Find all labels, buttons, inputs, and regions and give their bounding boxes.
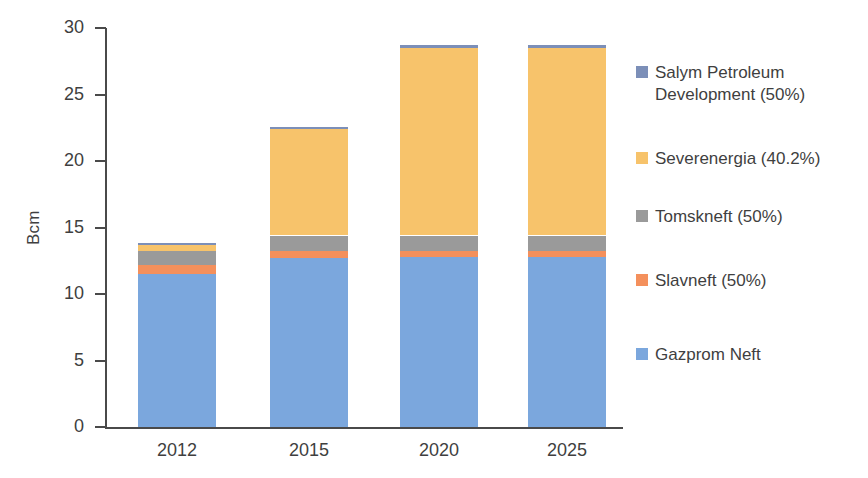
- y-tick-label: 10: [40, 284, 84, 302]
- bar-segment[interactable]: [138, 245, 216, 251]
- bar-segment[interactable]: [528, 48, 606, 236]
- y-tick-label: 20: [40, 151, 84, 169]
- bar-2012[interactable]: [138, 28, 216, 427]
- legend-item-salym-petroleum-development-50[interactable]: Salym Petroleum Development (50%): [636, 62, 805, 106]
- bar-segment[interactable]: [528, 45, 606, 48]
- y-tick-mark: [95, 160, 106, 162]
- bar-2015[interactable]: [270, 28, 348, 427]
- bar-segment[interactable]: [138, 251, 216, 264]
- legend-swatch-icon: [636, 348, 648, 360]
- bar-segment[interactable]: [400, 45, 478, 48]
- legend-swatch-icon: [636, 210, 648, 222]
- bar-segment[interactable]: [400, 236, 478, 252]
- bar-segment[interactable]: [270, 258, 348, 427]
- legend-swatch-icon: [636, 152, 648, 164]
- bar-segment[interactable]: [400, 251, 478, 256]
- bar-segment[interactable]: [138, 274, 216, 427]
- bar-segment[interactable]: [138, 243, 216, 245]
- legend-label: Salym Petroleum Development (50%): [655, 62, 805, 106]
- bar-2020[interactable]: [400, 28, 478, 427]
- legend-label: Slavneft (50%): [655, 270, 767, 292]
- bar-segment[interactable]: [400, 257, 478, 427]
- x-tick-label-2020: 2020: [389, 440, 489, 461]
- y-tick-mark: [95, 426, 106, 428]
- legend-swatch-icon: [636, 66, 648, 78]
- y-tick-label: 25: [40, 85, 84, 103]
- y-tick-label: 0: [40, 417, 84, 435]
- bar-segment[interactable]: [400, 48, 478, 236]
- x-tick-label-2015: 2015: [259, 440, 359, 461]
- y-tick-label: 5: [40, 351, 84, 369]
- legend-item-tomskneft-50[interactable]: Tomskneft (50%): [636, 206, 783, 228]
- bar-segment[interactable]: [528, 257, 606, 427]
- bar-segment[interactable]: [270, 236, 348, 252]
- y-tick-label: 15: [40, 218, 84, 236]
- legend-label: Tomskneft (50%): [655, 206, 783, 228]
- legend-label: Gazprom Neft: [655, 344, 761, 366]
- y-tick-mark: [95, 227, 106, 229]
- y-tick-mark: [95, 94, 106, 96]
- legend-item-gazprom-neft[interactable]: Gazprom Neft: [636, 344, 761, 366]
- legend-item-slavneft-50[interactable]: Slavneft (50%): [636, 270, 767, 292]
- legend-item-severenergia-40-2[interactable]: Severenergia (40.2%): [636, 148, 820, 170]
- x-axis-line: [105, 427, 623, 429]
- x-tick-label-2025: 2025: [517, 440, 617, 461]
- plot-area: [107, 28, 623, 427]
- legend-swatch-icon: [636, 274, 648, 286]
- y-tick-mark: [95, 293, 106, 295]
- y-tick-mark: [95, 27, 106, 29]
- y-tick-mark: [95, 360, 106, 362]
- y-tick-label: 30: [40, 18, 84, 36]
- bar-segment[interactable]: [138, 265, 216, 274]
- bar-2025[interactable]: [528, 28, 606, 427]
- stacked-bar-chart: Bcm 051015202530 2012201520202025 Salym …: [0, 0, 868, 478]
- x-tick-label-2012: 2012: [127, 440, 227, 461]
- bar-segment[interactable]: [270, 251, 348, 258]
- bar-segment[interactable]: [528, 236, 606, 252]
- legend-label: Severenergia (40.2%): [655, 148, 820, 170]
- bar-segment[interactable]: [270, 127, 348, 129]
- bar-segment[interactable]: [528, 251, 606, 256]
- bar-segment[interactable]: [270, 129, 348, 235]
